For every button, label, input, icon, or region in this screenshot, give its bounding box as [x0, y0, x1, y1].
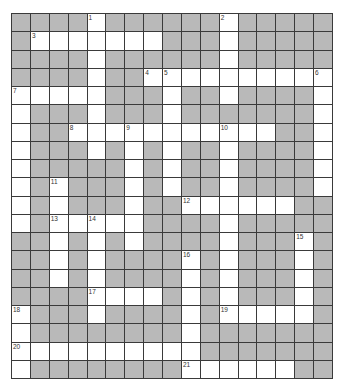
- crossword-cell[interactable]: [144, 32, 162, 49]
- crossword-cell[interactable]: [88, 105, 106, 122]
- crossword-cell[interactable]: [239, 197, 257, 214]
- crossword-cell[interactable]: [88, 32, 106, 49]
- crossword-cell[interactable]: [220, 361, 238, 378]
- crossword-cell[interactable]: [182, 69, 200, 86]
- crossword-cell[interactable]: 15: [295, 233, 313, 250]
- crossword-cell[interactable]: [31, 87, 49, 104]
- crossword-cell[interactable]: [88, 124, 106, 141]
- crossword-cell[interactable]: [12, 142, 30, 159]
- crossword-cell[interactable]: [314, 124, 332, 141]
- crossword-cell[interactable]: [295, 251, 313, 268]
- crossword-cell[interactable]: [257, 361, 275, 378]
- crossword-cell[interactable]: [88, 51, 106, 68]
- crossword-cell[interactable]: [125, 197, 143, 214]
- crossword-cell[interactable]: 2: [220, 14, 238, 31]
- crossword-cell[interactable]: [50, 233, 68, 250]
- crossword-cell[interactable]: [220, 87, 238, 104]
- crossword-cell[interactable]: [12, 197, 30, 214]
- crossword-cell[interactable]: [257, 306, 275, 323]
- crossword-cell[interactable]: [182, 324, 200, 341]
- crossword-cell[interactable]: [88, 142, 106, 159]
- crossword-cell[interactable]: [220, 215, 238, 232]
- crossword-cell[interactable]: [12, 215, 30, 232]
- crossword-cell[interactable]: [276, 361, 294, 378]
- crossword-cell[interactable]: [220, 270, 238, 287]
- crossword-cell[interactable]: [69, 215, 87, 232]
- crossword-cell[interactable]: [201, 361, 219, 378]
- crossword-cell[interactable]: [220, 32, 238, 49]
- crossword-cell[interactable]: [295, 288, 313, 305]
- crossword-cell[interactable]: [220, 51, 238, 68]
- crossword-cell[interactable]: [314, 87, 332, 104]
- crossword-cell[interactable]: [201, 124, 219, 141]
- crossword-cell[interactable]: [125, 32, 143, 49]
- crossword-cell[interactable]: 9: [125, 124, 143, 141]
- crossword-cell[interactable]: [50, 32, 68, 49]
- crossword-cell[interactable]: [239, 306, 257, 323]
- crossword-cell[interactable]: 5: [163, 69, 181, 86]
- crossword-cell[interactable]: 11: [50, 178, 68, 195]
- crossword-cell[interactable]: [106, 32, 124, 49]
- crossword-cell[interactable]: [257, 124, 275, 141]
- crossword-cell[interactable]: [88, 69, 106, 86]
- crossword-cell[interactable]: 14: [88, 215, 106, 232]
- crossword-cell[interactable]: [182, 124, 200, 141]
- crossword-cell[interactable]: [220, 160, 238, 177]
- crossword-cell[interactable]: [220, 288, 238, 305]
- crossword-cell[interactable]: 19: [220, 306, 238, 323]
- crossword-cell[interactable]: [295, 270, 313, 287]
- crossword-cell[interactable]: [12, 124, 30, 141]
- crossword-cell[interactable]: [239, 361, 257, 378]
- crossword-cell[interactable]: 10: [220, 124, 238, 141]
- crossword-cell[interactable]: [144, 288, 162, 305]
- crossword-cell[interactable]: [239, 124, 257, 141]
- crossword-cell[interactable]: [314, 160, 332, 177]
- crossword-cell[interactable]: [276, 69, 294, 86]
- crossword-cell[interactable]: [220, 142, 238, 159]
- crossword-cell[interactable]: [69, 32, 87, 49]
- crossword-cell[interactable]: [88, 306, 106, 323]
- crossword-cell[interactable]: [88, 270, 106, 287]
- crossword-cell[interactable]: [106, 124, 124, 141]
- crossword-cell[interactable]: [182, 270, 200, 287]
- crossword-cell[interactable]: 3: [31, 32, 49, 49]
- crossword-cell[interactable]: [314, 178, 332, 195]
- crossword-cell[interactable]: [31, 343, 49, 360]
- crossword-cell[interactable]: [125, 215, 143, 232]
- crossword-cell[interactable]: [220, 233, 238, 250]
- crossword-cell[interactable]: [12, 160, 30, 177]
- crossword-cell[interactable]: [295, 306, 313, 323]
- crossword-cell[interactable]: [12, 361, 30, 378]
- crossword-cell[interactable]: 21: [182, 361, 200, 378]
- crossword-cell[interactable]: [69, 87, 87, 104]
- crossword-cell[interactable]: [125, 343, 143, 360]
- crossword-cell[interactable]: [12, 105, 30, 122]
- crossword-cell[interactable]: [220, 69, 238, 86]
- crossword-cell[interactable]: [295, 69, 313, 86]
- crossword-cell[interactable]: [163, 105, 181, 122]
- crossword-cell[interactable]: [163, 142, 181, 159]
- crossword-cell[interactable]: 4: [144, 69, 162, 86]
- crossword-cell[interactable]: 1: [88, 14, 106, 31]
- crossword-cell[interactable]: [50, 251, 68, 268]
- crossword-cell[interactable]: [182, 288, 200, 305]
- crossword-cell[interactable]: [163, 160, 181, 177]
- crossword-cell[interactable]: [125, 178, 143, 195]
- crossword-cell[interactable]: [220, 251, 238, 268]
- crossword-cell[interactable]: [106, 288, 124, 305]
- crossword-cell[interactable]: [125, 160, 143, 177]
- crossword-cell[interactable]: 7: [12, 87, 30, 104]
- crossword-cell[interactable]: [220, 178, 238, 195]
- crossword-cell[interactable]: [50, 197, 68, 214]
- crossword-cell[interactable]: [106, 215, 124, 232]
- crossword-cell[interactable]: 20: [12, 343, 30, 360]
- crossword-cell[interactable]: [220, 197, 238, 214]
- crossword-cell[interactable]: [88, 233, 106, 250]
- crossword-cell[interactable]: [125, 233, 143, 250]
- crossword-cell[interactable]: 8: [69, 124, 87, 141]
- crossword-cell[interactable]: [12, 178, 30, 195]
- crossword-cell[interactable]: [125, 142, 143, 159]
- crossword-cell[interactable]: [88, 87, 106, 104]
- crossword-cell[interactable]: [182, 306, 200, 323]
- crossword-cell[interactable]: [163, 178, 181, 195]
